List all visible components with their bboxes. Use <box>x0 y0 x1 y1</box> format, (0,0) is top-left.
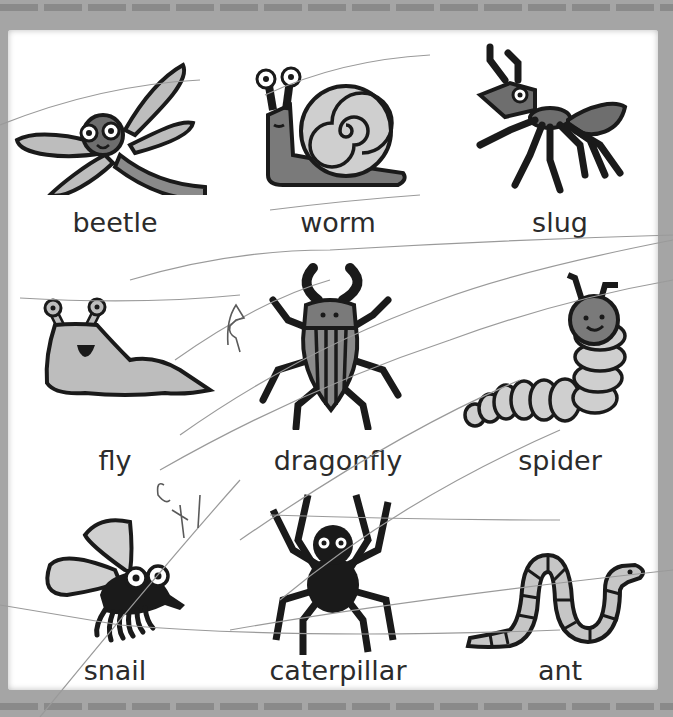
grid-cell-6: spider <box>450 260 670 485</box>
grid-label-9: ant <box>450 655 670 686</box>
worksheet-frame: beetle worm slug <box>0 0 673 717</box>
fly-icon <box>5 490 225 650</box>
ant-icon <box>450 35 670 195</box>
grid-label-6: spider <box>450 445 670 476</box>
grid-label-8: caterpillar <box>228 655 448 686</box>
grid-cell-4: fly <box>5 265 225 490</box>
grid-label-3: slug <box>450 207 670 238</box>
grid-cell-7: snail <box>5 490 225 715</box>
grid-label-4: fly <box>5 445 225 476</box>
dragonfly-icon <box>5 35 225 195</box>
grid-cell-2: worm <box>228 35 448 260</box>
grid-cell-1: beetle <box>5 35 225 260</box>
caterpillar-icon <box>450 260 670 430</box>
snail-icon <box>228 35 448 195</box>
grid-cell-8: caterpillar <box>228 490 448 715</box>
grid-cell-9: ant <box>450 490 670 715</box>
slug-icon <box>5 265 225 425</box>
grid-cell-3: slug <box>450 35 670 260</box>
grid-label-5: dragonfly <box>228 445 448 476</box>
worm-icon <box>450 490 670 660</box>
grid-label-1: beetle <box>5 207 225 238</box>
beetle-icon <box>228 260 448 430</box>
grid-cell-5: dragonfly <box>228 260 448 485</box>
top-dashed-border <box>0 4 673 14</box>
spider-icon <box>228 490 448 660</box>
grid-label-2: worm <box>228 207 448 238</box>
grid-label-7: snail <box>5 655 225 686</box>
